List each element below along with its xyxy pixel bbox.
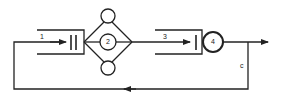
feedback-line — [14, 42, 248, 89]
diagram-canvas — [0, 0, 282, 102]
server-2-top — [101, 9, 115, 23]
server-2-bottom — [101, 61, 115, 75]
feedback-label: c — [240, 62, 244, 69]
queue-3-label: 3 — [163, 33, 167, 40]
queueing-network-diagram: 1 2 3 4 c — [0, 0, 282, 102]
server-4-label: 4 — [211, 38, 215, 45]
server-2-label: 2 — [106, 38, 110, 45]
queue-1-label: 1 — [40, 33, 44, 40]
